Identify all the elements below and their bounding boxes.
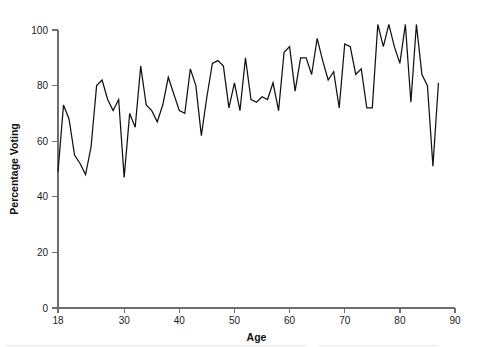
x-axis-title: Age bbox=[247, 331, 267, 343]
line-chart: 100 80 60 40 20 0 18 30 40 50 60 70 80 bbox=[0, 0, 478, 347]
y-tick-label-80: 80 bbox=[37, 80, 49, 91]
y-tick-label-60: 60 bbox=[37, 136, 49, 147]
x-tick-label-70: 70 bbox=[339, 315, 351, 326]
x-tick-label-60: 60 bbox=[284, 315, 296, 326]
caption-remnant bbox=[6, 345, 438, 346]
y-tick-label-0: 0 bbox=[42, 303, 48, 314]
figure-container: 100 80 60 40 20 0 18 30 40 50 60 70 80 bbox=[0, 0, 478, 347]
x-tick-label-80: 80 bbox=[394, 315, 406, 326]
x-tick-label-30: 30 bbox=[119, 315, 131, 326]
x-tick-label-50: 50 bbox=[229, 315, 241, 326]
y-axis-title: Percentage Voting bbox=[8, 123, 20, 214]
x-tick-label-18: 18 bbox=[52, 315, 64, 326]
x-tick-label-90: 90 bbox=[449, 315, 461, 326]
y-tick-label-20: 20 bbox=[37, 247, 49, 258]
y-tick-label-40: 40 bbox=[37, 191, 49, 202]
x-tick-label-40: 40 bbox=[174, 315, 186, 326]
chart-background bbox=[0, 0, 478, 347]
y-tick-label-100: 100 bbox=[31, 25, 48, 36]
